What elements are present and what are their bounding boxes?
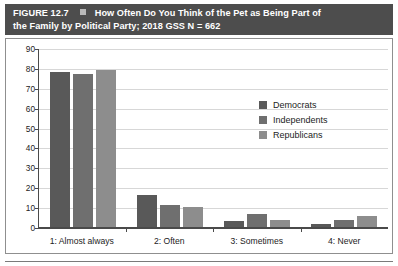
y-axis-tick-label: 20 bbox=[26, 184, 35, 192]
bar-democrats-3[interactable] bbox=[224, 221, 244, 227]
bar-democrats-2[interactable] bbox=[137, 195, 157, 227]
legend-item-republicans[interactable]: Republicans bbox=[259, 127, 328, 142]
x-axis-label-4: 4: Never bbox=[301, 235, 389, 249]
y-axis-tick-label: 60 bbox=[26, 105, 35, 113]
figure-title-bar: FIGURE 12.7How Often Do You Think of the… bbox=[5, 4, 393, 35]
bar-independents-3[interactable] bbox=[247, 214, 267, 227]
y-axis-tick-label: 10 bbox=[26, 204, 35, 212]
bar-independents-2[interactable] bbox=[160, 205, 180, 227]
y-axis-tick-label: 70 bbox=[26, 85, 35, 93]
x-axis-divider bbox=[213, 228, 214, 232]
x-axis-labels: 1: Almost always2: Often3: Sometimes4: N… bbox=[38, 235, 388, 249]
legend-label: Independents bbox=[273, 115, 328, 125]
y-axis-tick-label: 50 bbox=[26, 125, 35, 133]
bar-group bbox=[39, 49, 126, 227]
figure-number: FIGURE 12.7 bbox=[13, 8, 69, 18]
x-axis-divider bbox=[301, 228, 302, 232]
legend-swatch-icon bbox=[259, 131, 267, 139]
title-square-icon bbox=[80, 9, 86, 15]
bar-republicans-3[interactable] bbox=[270, 220, 290, 227]
figure-container: FIGURE 12.7How Often Do You Think of the… bbox=[0, 0, 398, 266]
bottom-rule-divider bbox=[5, 261, 393, 262]
legend-swatch-icon bbox=[259, 101, 267, 109]
bar-groups bbox=[39, 49, 388, 227]
x-axis-divider bbox=[126, 228, 127, 232]
chart-legend: DemocratsIndependentsRepublicans bbox=[259, 97, 328, 142]
figure-title-text-1: How Often Do You Think of the Pet as Bei… bbox=[95, 8, 321, 18]
y-axis-tick-label: 80 bbox=[26, 65, 35, 73]
plot-frame: 0102030405060708090 1: Almost always2: O… bbox=[5, 38, 393, 254]
bar-democrats-4[interactable] bbox=[311, 224, 331, 227]
legend-swatch-icon bbox=[259, 116, 267, 124]
y-axis-tick-label: 40 bbox=[26, 144, 35, 152]
legend-item-independents[interactable]: Independents bbox=[259, 112, 328, 127]
plot-area: 0102030405060708090 bbox=[38, 49, 388, 228]
bar-republicans-2[interactable] bbox=[183, 207, 203, 227]
y-axis-tick-label: 90 bbox=[26, 45, 35, 53]
legend-label: Republicans bbox=[273, 130, 323, 140]
figure-title-line-1: FIGURE 12.7How Often Do You Think of the… bbox=[13, 7, 387, 20]
bar-republicans-1[interactable] bbox=[96, 70, 116, 227]
bar-democrats-1[interactable] bbox=[50, 72, 70, 227]
bar-republicans-4[interactable] bbox=[357, 216, 377, 227]
y-axis-tick-mark bbox=[35, 228, 38, 229]
legend-item-democrats[interactable]: Democrats bbox=[259, 97, 328, 112]
y-axis-tick-label: 30 bbox=[26, 164, 35, 172]
x-axis-label-2: 2: Often bbox=[126, 235, 214, 249]
bar-independents-1[interactable] bbox=[73, 74, 93, 227]
x-axis-label-1: 1: Almost always bbox=[38, 235, 126, 249]
bar-group bbox=[126, 49, 213, 227]
bar-independents-4[interactable] bbox=[334, 220, 354, 227]
figure-title-line-2: the Family by Political Party; 2018 GSS … bbox=[13, 20, 387, 33]
legend-label: Democrats bbox=[273, 100, 317, 110]
x-axis-label-3: 3: Sometimes bbox=[213, 235, 301, 249]
